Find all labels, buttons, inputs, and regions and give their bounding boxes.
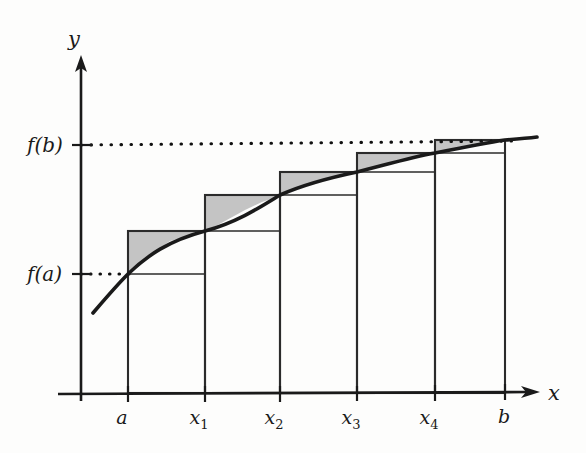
tick-label-x2: x2: [265, 406, 284, 432]
x-tick-labels: a x1 x2 x3 x4 b: [116, 405, 510, 432]
fb-value-label: f(b): [25, 133, 63, 157]
rectangle-5: [435, 140, 505, 393]
shaded-error-bands: [128, 140, 505, 275]
tick-label-a: a: [116, 406, 127, 428]
axes: [58, 55, 540, 401]
rectangle-3: [280, 172, 357, 393]
rectangle-4: [357, 153, 435, 393]
riemann-sum-diagram: y x f(b) f(a) a x1 x2 x3 x4 b: [0, 0, 586, 453]
tick-label-x3-base: x: [342, 406, 353, 428]
tick-label-x1-base: x: [190, 406, 201, 428]
y-axis-label: y: [67, 27, 81, 51]
fa-value-label: f(a): [25, 262, 62, 286]
tick-label-x3: x3: [342, 406, 361, 432]
tick-label-x4-subscript: 4: [430, 417, 438, 432]
tick-label-x2-subscript: 2: [275, 417, 283, 432]
tick-label-x4: x4: [420, 406, 439, 432]
tick-label-x1: x1: [190, 406, 209, 432]
function-curve: [93, 137, 537, 313]
tick-label-x3-subscript: 3: [352, 417, 360, 432]
tick-label-b: b: [498, 405, 510, 427]
riemann-sum-figure: y x f(b) f(a) a x1 x2 x3 x4 b: [0, 0, 586, 453]
x-axis-label: x: [548, 381, 560, 405]
tick-label-x4-base: x: [420, 406, 431, 428]
tick-label-x1-subscript: 1: [200, 417, 208, 432]
tick-label-x2-base: x: [265, 406, 276, 428]
